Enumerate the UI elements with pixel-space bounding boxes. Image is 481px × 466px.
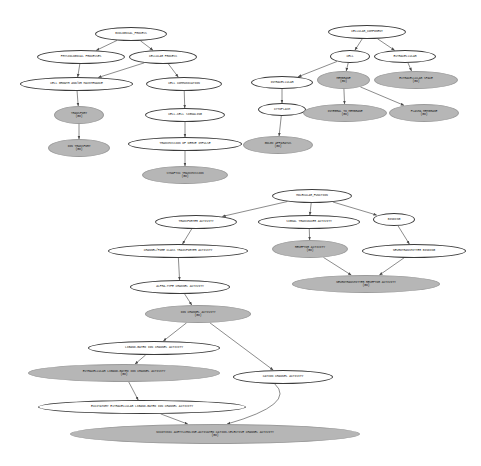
go-node-neurotrans_receptor[interactable]: NEUROTRANSMITTER RECEPTOR ACTIVITY(GO) [292,275,440,293]
go-node-intracellular[interactable]: INTRACELLULAR [251,76,313,89]
edge-bio_process-to-phys_processes [96,40,117,50]
go-node-integral_membrane[interactable]: INTEGRAL TO MEMBRANE(GO) [303,104,387,122]
edge-excitatory-to-nicotinic [161,414,188,424]
edge-cell_component-to-extracellular [377,39,394,51]
edge-cell-to-membrane [346,63,348,71]
go-node-cellular_process[interactable]: CELLULAR PROCESS [129,50,197,64]
go-node-id: (GO) [412,80,419,83]
edge-cytoplasm-to-golgi [279,116,281,136]
edge-alpha_channel-to-ion_channel_act [185,294,192,305]
go-node-label: INTRACELLULAR [271,81,294,84]
go-node-label: BINDING [388,218,400,221]
go-node-transport[interactable]: TRANSPORT(GO) [54,106,104,124]
go-node-label: CELL [346,55,353,58]
go-node-cytoplasm[interactable]: CYTOPLASM [258,103,306,116]
go-node-excitatory[interactable]: EXCITATORY EXTRACELLULAR LIGAND-GATED IO… [38,400,246,414]
go-node-id: (GO) [181,175,188,178]
go-node-transporter_act[interactable]: TRANSPORTER ACTIVITY [155,215,237,229]
edge-phys_processes-to-cell_growth [78,64,80,77]
go-node-receptor_act[interactable]: RECEPTOR ACTIVITY(GO) [272,240,348,258]
edge-mol_function-to-transporter_act [222,202,287,217]
edge-ion_channel_act-to-ligand_gated [163,323,186,341]
go-node-label: SIGNAL TRANSDUCER ACTIVITY [286,220,332,223]
go-node-label: ALPHA-TYPE CHANNEL ACTIVITY [156,285,203,288]
go-node-id: (GO) [211,434,218,437]
go-node-signal_trans_act[interactable]: SIGNAL TRANSDUCER ACTIVITY [258,215,360,229]
edge-cellular_process-to-cell_growth [98,63,144,78]
edge-membrane-to-integral_membrane [344,89,345,104]
go-node-phys_processes[interactable]: PHYSIOLOGICAL PROCESSES [37,50,125,64]
go-node-extracell_ligand[interactable]: EXTRACELLULAR LIGAND-GATED ION CHANNEL A… [28,364,220,382]
go-node-label: EXTRACELLULAR [394,55,417,58]
go-node-id: (GO) [362,284,369,287]
go-node-cell_comm[interactable]: CELL COMMUNICATION [146,77,222,91]
go-node-id: (GO) [75,115,82,118]
go-node-cell_component[interactable]: CELLULAR_COMPONENT [328,25,406,39]
go-node-cation_channel[interactable]: CATION CHANNEL ACTIVITY [233,370,333,384]
edge-transporter_act-to-channel_pore [182,229,191,244]
edge-channel_pore-to-alpha_channel [178,258,179,280]
edge-extracellular-to-extracell_space [408,63,412,71]
edge-layer [0,0,481,466]
go-node-label: BIOLOGICAL_PROCESS [115,32,147,35]
edge-cellular_process-to-cell_comm [168,64,178,77]
go-node-ligand_gated[interactable]: LIGAND-GATED ION CHANNEL ACTIVITY [88,341,220,355]
go-node-cell_cell_sig[interactable]: CELL-CELL SIGNALING [145,108,225,122]
go-node-binding[interactable]: BINDING [373,213,415,226]
edge-mol_function-to-signal_trans_act [310,203,311,215]
edge-cell_growth-to-transport [77,91,78,106]
go-node-id: (GO) [341,113,348,116]
edge-mol_function-to-binding [333,202,377,215]
go-node-cell[interactable]: CELL [330,50,370,63]
go-node-label: LIGAND-GATED ION CHANNEL ACTIVITY [125,346,183,349]
go-node-label: MOLECULAR_FUNCTION [296,194,328,197]
go-node-label: CYTOPLASM [274,108,290,111]
go-node-membrane[interactable]: MEMBRANE(GO) [317,71,370,89]
edge-extracell_ligand-to-excitatory [129,382,138,400]
go-node-id: (GO) [194,314,201,317]
go-node-nerve_impulse[interactable]: TRANSMISSION OF NERVE IMPULSE [128,137,242,151]
go-node-alpha_channel[interactable]: ALPHA-TYPE CHANNEL ACTIVITY [130,280,230,294]
edge-ligand_gated-to-extracell_ligand [135,355,146,364]
go-dag-figure: BIOLOGICAL_PROCESSPHYSIOLOGICAL PROCESSE… [0,0,481,466]
go-node-id: (GO) [75,148,82,151]
edge-bio_process-to-cellular_process [140,41,153,51]
go-node-label: CHANNEL/PORE CLASS TRANSPORTER ACTIVITY [144,249,213,252]
go-node-id: (GO) [274,145,281,148]
go-node-id: (GO) [340,80,347,83]
go-node-cell_growth[interactable]: CELL GROWTH AND/OR MAINTENANCE [20,77,133,91]
edge-membrane-to-plasma_membrane [360,87,404,105]
go-node-id: (GO) [120,373,127,376]
edge-cell_comm-to-cell_cell_sig [184,91,185,108]
go-node-label: TRANSMISSION OF NERVE IMPULSE [160,142,211,145]
go-node-label: CELL-CELL SIGNALING [168,113,201,116]
go-node-label: CELLULAR_COMPONENT [351,30,383,33]
go-node-ion_channel_act[interactable]: ION CHANNEL ACTIVITY(GO) [145,305,251,323]
go-node-bio_process[interactable]: BIOLOGICAL_PROCESS [95,27,167,41]
go-node-extracell_space[interactable]: EXTRACELLULAR SPACE(GO) [374,71,458,89]
go-node-extracellular[interactable]: EXTRACELLULAR [374,50,436,63]
edge-cell_component-to-cell [355,39,362,50]
edge-receptor_act-to-neurotrans_receptor [323,257,351,275]
edge-neurotrans_binding-to-neurotrans_receptor [379,258,404,275]
go-node-synaptic_trans[interactable]: SYNAPTIC TRANSMISSION(GO) [142,166,228,184]
go-node-label: CELL GROWTH AND/OR MAINTENANCE [50,82,103,85]
go-node-label: NEUROTRANSMITTER BINDING [393,249,435,252]
go-node-id: (GO) [306,249,313,252]
go-node-label: PHYSIOLOGICAL PROCESSES [61,55,101,58]
go-node-nicotinic[interactable]: NICOTINIC ACETYLCHOLINE-ACTIVATED CATION… [70,424,360,444]
go-node-label: TRANSPORTER ACTIVITY [178,220,213,223]
go-node-plasma_membrane[interactable]: PLASMA MEMBRANE(GO) [389,104,459,122]
go-node-label: CELLULAR PROCESS [149,55,177,58]
go-node-ion_transport[interactable]: ION TRANSPORT(GO) [48,139,110,157]
edge-binding-to-neurotrans_binding [398,226,409,244]
go-node-label: CATION CHANNEL ACTIVITY [263,375,303,378]
go-node-channel_pore[interactable]: CHANNEL/PORE CLASS TRANSPORTER ACTIVITY [108,244,248,258]
go-node-neurotrans_binding[interactable]: NEUROTRANSMITTER BINDING [362,244,466,258]
go-node-label: EXCITATORY EXTRACELLULAR LIGAND-GATED IO… [91,405,193,408]
go-node-golgi[interactable]: GOLGI APPARATUS(GO) [243,136,313,154]
go-node-mol_function[interactable]: MOLECULAR_FUNCTION [272,189,352,203]
go-node-id: (GO) [420,113,427,116]
go-node-label: CELL COMMUNICATION [168,82,200,85]
